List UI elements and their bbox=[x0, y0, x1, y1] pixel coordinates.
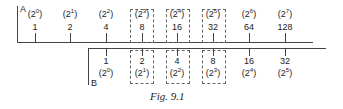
scale-a-value: 8 bbox=[127, 22, 157, 32]
scale-a-tick bbox=[35, 33, 36, 42]
scale-a-tick bbox=[177, 33, 178, 42]
scale-b-exponent: (20) bbox=[91, 68, 121, 78]
scale-a-exponent: (23) bbox=[127, 9, 157, 19]
scale-b-value: 1 bbox=[91, 56, 121, 66]
scale-b-tick bbox=[213, 49, 214, 56]
scale-b-value: 16 bbox=[234, 56, 264, 66]
scale-a-exponent: (27) bbox=[270, 9, 300, 19]
scale-a-value: 64 bbox=[234, 22, 264, 32]
scale-b-tick bbox=[177, 49, 178, 56]
scale-a-exponent: (24) bbox=[162, 9, 192, 19]
scale-b-left-edge bbox=[88, 48, 89, 85]
scale-a-tick bbox=[142, 33, 143, 42]
scale-b-value: 32 bbox=[270, 56, 300, 66]
scale-a-value: 32 bbox=[198, 22, 228, 32]
scale-b-tick bbox=[106, 49, 107, 56]
scale-a-tick bbox=[249, 33, 250, 42]
scale-b-value: 4 bbox=[162, 56, 192, 66]
scale-b-topline bbox=[88, 48, 326, 49]
scale-a-value: 128 bbox=[270, 22, 300, 32]
figure-caption: Fig. 9.1 bbox=[150, 90, 185, 102]
scale-b-exponent: (21) bbox=[127, 68, 157, 78]
scale-b-tick bbox=[142, 49, 143, 56]
scale-a-exponent: (21) bbox=[55, 9, 85, 19]
scale-b-exponent: (22) bbox=[162, 68, 192, 78]
scale-a-tick bbox=[285, 33, 286, 42]
scale-a-value: 4 bbox=[91, 22, 121, 32]
scale-a-left-edge bbox=[17, 6, 18, 43]
scale-b-exponent: (25) bbox=[270, 68, 300, 78]
scale-b-tick bbox=[249, 49, 250, 56]
scale-a-value: 16 bbox=[162, 22, 192, 32]
scale-b-value: 8 bbox=[198, 56, 228, 66]
scale-a-tick bbox=[213, 33, 214, 42]
scale-a-exponent: (20) bbox=[20, 9, 50, 19]
scale-a-exponent: (22) bbox=[91, 9, 121, 19]
scale-a-value: 1 bbox=[20, 22, 50, 32]
scale-a-tick bbox=[106, 33, 107, 42]
scale-b-exponent: (23) bbox=[198, 68, 228, 78]
scale-a-baseline bbox=[17, 42, 313, 43]
scale-a-tick bbox=[70, 33, 71, 42]
scale-a-exponent: (25) bbox=[198, 9, 228, 19]
scale-b-label: B bbox=[91, 78, 97, 88]
scale-b-value: 2 bbox=[127, 56, 157, 66]
scale-a-exponent: (26) bbox=[234, 9, 264, 19]
scale-b-tick bbox=[285, 49, 286, 56]
scale-b-exponent: (24) bbox=[234, 68, 264, 78]
scale-a-value: 2 bbox=[55, 22, 85, 32]
